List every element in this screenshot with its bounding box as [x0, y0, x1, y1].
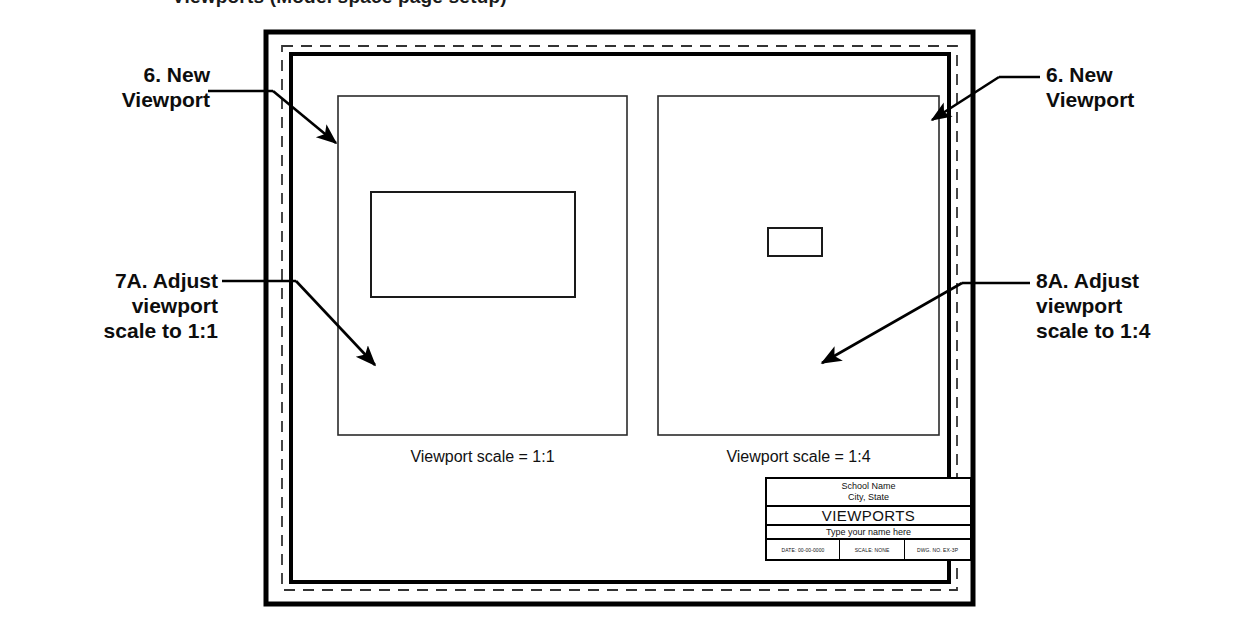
title-block-name-field[interactable]: Type your name here [767, 526, 970, 540]
title-block-city-state: City, State [848, 492, 889, 503]
viewport-right-content-rectangle [768, 228, 822, 256]
title-block-date: DATE: 00-00-0000 [767, 540, 840, 559]
viewport-right-scale-caption: Viewport scale = 1:4 [658, 448, 939, 466]
viewport-right[interactable] [658, 96, 939, 435]
title-block-meta-row: DATE: 00-00-0000 SCALE: NONE DWG. NO. EX… [767, 540, 970, 559]
title-block-dwg-no: DWG. NO. EX-3P [905, 540, 970, 559]
callout-6-left: 6. New Viewport [40, 62, 210, 112]
title-block-school-name: School Name [841, 481, 895, 492]
callout-6-right: 6. New Viewport [1046, 62, 1236, 112]
title-block: School Name City, State VIEWPORTS Type y… [765, 477, 972, 561]
viewport-left-scale-caption: Viewport scale = 1:1 [338, 448, 627, 466]
drawing-canvas: Viewports (Model space page setup) [0, 0, 1246, 640]
callout-8a: 8A. Adjust viewport scale to 1:4 [1036, 268, 1241, 343]
viewport-left-content-rectangle [371, 192, 575, 297]
title-block-scale: SCALE: NONE [840, 540, 905, 559]
title-block-school-row: School Name City, State [767, 479, 970, 507]
title-block-drawing-title: VIEWPORTS [767, 507, 970, 526]
callout-7a: 7A. Adjust viewport scale to 1:1 [22, 268, 218, 343]
